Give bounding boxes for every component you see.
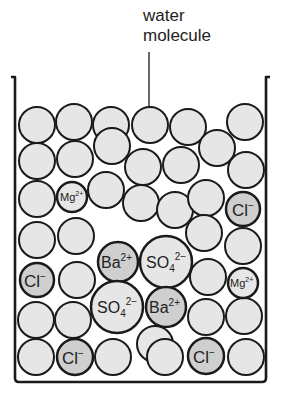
ion-so4-1: SO42− — [140, 236, 192, 288]
ion-cl-1: Cl− — [226, 192, 260, 226]
ion-ba-1: Ba2+ — [98, 242, 138, 282]
ion-cl-3: Cl− — [57, 339, 93, 375]
solution-diagram: Mg2+ Mg2+ Cl− Cl− Cl− Cl− Ba2+ — [0, 0, 284, 400]
ion-cl-4: Cl− — [188, 338, 224, 374]
ion-ba-2: Ba2+ — [146, 287, 186, 327]
ion-mg-1: Mg2+ — [57, 182, 87, 212]
water-molecules — [18, 104, 264, 375]
ion-mg-2: Mg2+ — [228, 268, 258, 298]
ion-cl-2: Cl− — [20, 263, 54, 297]
ion-so4-2: SO42− — [91, 281, 143, 333]
